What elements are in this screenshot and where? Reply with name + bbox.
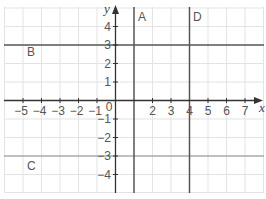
y-tick-label: 2: [104, 57, 111, 71]
y-tick-label: 1: [104, 75, 111, 89]
y-tick-label: −3: [97, 149, 111, 163]
line-c-label: C: [27, 159, 36, 173]
x-tick-label: −4: [33, 104, 47, 118]
y-axis-label: y: [102, 1, 110, 16]
y-tick-label: −1: [97, 112, 111, 126]
x-axis-label: x: [258, 100, 265, 115]
line-a-label: A: [138, 10, 146, 24]
x-tick-label: −5: [14, 104, 28, 118]
line-b-label: B: [27, 45, 35, 59]
x-tick-label: −2: [70, 104, 84, 118]
line-d-label: D: [193, 10, 202, 24]
x-tick-labels: −5 −4 −3 −2 −1 0 2 3 4 5 6 7: [14, 100, 249, 118]
y-tick-label: 4: [104, 20, 111, 34]
y-axis-arrow-icon: [112, 5, 119, 14]
x-tick-label: 6: [223, 104, 230, 118]
x-tick-label: −3: [51, 104, 65, 118]
y-tick-label: −2: [97, 131, 111, 145]
coordinate-grid-diagram: y x −5 −4 −3 −2 −1 0 2 3 4 5 6 7 4 3 2 1…: [0, 0, 266, 199]
x-tick-label: 3: [168, 104, 175, 118]
x-tick-label: 5: [205, 104, 212, 118]
x-tick-label: 7: [242, 104, 249, 118]
y-axis: [112, 5, 119, 193]
y-tick-label: −4: [97, 168, 111, 182]
x-tick-label: 4: [186, 104, 193, 118]
x-tick-label: 2: [149, 104, 156, 118]
y-tick-label: 3: [104, 38, 111, 52]
